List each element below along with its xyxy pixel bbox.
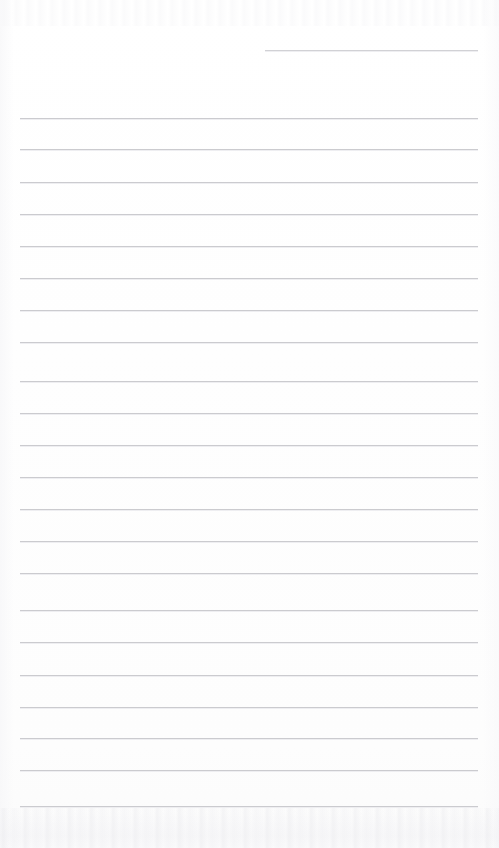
left-edge-shading (0, 0, 14, 848)
rule-line (265, 50, 478, 51)
paper-surface (0, 0, 499, 848)
rule-line (20, 675, 478, 676)
rule-line (20, 214, 478, 215)
rule-line (20, 541, 478, 542)
rule-line (20, 278, 478, 279)
right-edge-shading (483, 0, 499, 848)
rule-line (20, 118, 478, 119)
rule-line (20, 413, 478, 414)
rule-line (20, 445, 478, 446)
rule-line (20, 509, 478, 510)
notebook-page (0, 0, 499, 848)
rule-line (20, 246, 478, 247)
rule-line (20, 149, 478, 150)
scan-noise-top-band (0, 0, 499, 26)
rule-line (20, 707, 478, 708)
rule-line (20, 806, 478, 807)
scan-noise-bottom-band (0, 808, 499, 848)
rule-line (20, 310, 478, 311)
rule-line (20, 770, 478, 771)
rule-line (20, 182, 478, 183)
rule-line (20, 477, 478, 478)
rule-line (20, 738, 478, 739)
rule-line (20, 610, 478, 611)
rule-line (20, 342, 478, 343)
rule-line (20, 573, 478, 574)
rule-line (20, 381, 478, 382)
rule-line (20, 642, 478, 643)
